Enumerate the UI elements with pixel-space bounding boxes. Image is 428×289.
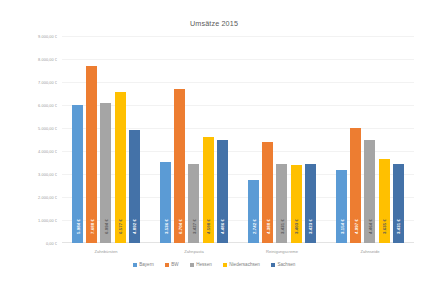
bar[interactable]: 4.388 € [262, 142, 273, 243]
legend-color-swatch [271, 263, 275, 267]
bar-value-label: 4.486 € [220, 219, 225, 234]
legend-item-bw[interactable]: BW [165, 262, 179, 267]
plot-area: 5.984 €7.688 €6.094 €6.577 €4.892 €3.536… [62, 36, 414, 243]
chart-title: Umsätze 2015 [0, 19, 428, 28]
bar[interactable]: 3.536 € [160, 162, 171, 243]
bar-value-label: 3.403 € [294, 219, 299, 234]
bar[interactable]: 4.464 € [364, 140, 375, 243]
bar[interactable]: 3.427 € [188, 164, 199, 243]
bar-group: 5.984 €7.688 €6.094 €6.577 €4.892 € [72, 36, 140, 243]
bar-value-label: 4.997 € [353, 219, 358, 234]
legend-label: Bayern [139, 262, 154, 267]
legend-item-niedersachsen[interactable]: Niedersachsen [223, 262, 260, 267]
y-axis-tick-label: 9.000,00 € [38, 34, 57, 39]
bar[interactable]: 6.577 € [115, 92, 126, 243]
bar-group: 3.154 €4.997 €4.464 €3.635 €3.431 € [336, 36, 404, 243]
bar[interactable]: 4.997 € [350, 128, 361, 243]
x-axis-category-label: Zahnpasta [184, 249, 203, 254]
chart-container: Umsätze 2015 9.000,00 €8.000,00 €7.000,0… [0, 0, 428, 289]
bar-value-label: 4.464 € [367, 219, 372, 234]
bar-value-label: 3.635 € [382, 219, 387, 234]
bar-value-label: 3.536 € [163, 219, 168, 234]
legend-item-bayern[interactable]: Bayern [133, 262, 154, 267]
y-axis-tick-label: 6.000,00 € [38, 103, 57, 108]
x-axis-category-labels: ZahnbürstenZahnpastaReinigungscremeZahns… [62, 249, 414, 259]
legend-color-swatch [165, 263, 169, 267]
bar-value-label: 5.984 € [75, 219, 80, 234]
legend-color-swatch [133, 263, 137, 267]
bar[interactable]: 4.892 € [129, 130, 140, 243]
bar-value-label: 3.423 € [308, 219, 313, 234]
bar[interactable]: 3.423 € [305, 164, 316, 243]
y-axis-tick-label: 3.000,00 € [38, 172, 57, 177]
x-axis-category-label: Zahnbürsten [95, 249, 118, 254]
y-axis-tick-label: 2.000,00 € [38, 195, 57, 200]
bar[interactable]: 4.486 € [217, 140, 228, 243]
bar[interactable]: 7.688 € [86, 66, 97, 243]
y-axis-tick-label: 8.000,00 € [38, 57, 57, 62]
bar-value-label: 7.688 € [89, 219, 94, 234]
x-axis-category-label: Reinigungscreme [266, 249, 298, 254]
bar[interactable]: 6.094 € [100, 103, 111, 243]
y-axis-tick-label: 0,00 € [46, 241, 57, 246]
legend-color-swatch [223, 263, 227, 267]
bar-value-label: 6.094 € [103, 219, 108, 234]
bar[interactable]: 3.431 € [393, 164, 404, 243]
bar[interactable]: 3.154 € [336, 170, 347, 243]
legend-label: Niedersachsen [229, 262, 260, 267]
bar-value-label: 4.598 € [206, 219, 211, 234]
bar-group: 2.742 €4.388 €3.431 €3.403 €3.423 € [248, 36, 316, 243]
bar-value-label: 3.431 € [279, 219, 284, 234]
y-axis-labels: 9.000,00 €8.000,00 €7.000,00 €6.000,00 €… [0, 36, 60, 243]
bar-value-label: 6.577 € [118, 219, 123, 234]
bar[interactable]: 6.704 € [174, 89, 185, 243]
legend-color-swatch [190, 263, 194, 267]
legend-item-sachsen[interactable]: Sachsen [271, 262, 295, 267]
bar[interactable]: 3.403 € [291, 165, 302, 243]
bar[interactable]: 2.742 € [248, 180, 259, 243]
x-axis-category-label: Zahnseide [360, 249, 379, 254]
bar-value-label: 6.704 € [177, 219, 182, 234]
bar-value-label: 3.427 € [191, 219, 196, 234]
y-axis-tick-label: 5.000,00 € [38, 126, 57, 131]
bar[interactable]: 5.984 € [72, 105, 83, 243]
bar-value-label: 4.892 € [132, 219, 137, 234]
legend-label: Hessen [196, 262, 212, 267]
bar-group: 3.536 €6.704 €3.427 €4.598 €4.486 € [160, 36, 228, 243]
bar-value-label: 3.154 € [339, 219, 344, 234]
y-axis-tick-label: 1.000,00 € [38, 218, 57, 223]
legend-label: Sachsen [277, 262, 295, 267]
bar[interactable]: 4.598 € [203, 137, 214, 243]
bar-value-label: 2.742 € [251, 219, 256, 234]
bar-value-label: 4.388 € [265, 219, 270, 234]
chart-legend: BayernBWHessenNiedersachsenSachsen [0, 262, 428, 267]
legend-item-hessen[interactable]: Hessen [190, 262, 212, 267]
y-axis-tick-label: 7.000,00 € [38, 80, 57, 85]
y-axis-tick-label: 4.000,00 € [38, 149, 57, 154]
legend-label: BW [171, 262, 178, 267]
bar[interactable]: 3.431 € [276, 164, 287, 243]
bar[interactable]: 3.635 € [379, 159, 390, 243]
bar-value-label: 3.431 € [396, 219, 401, 234]
